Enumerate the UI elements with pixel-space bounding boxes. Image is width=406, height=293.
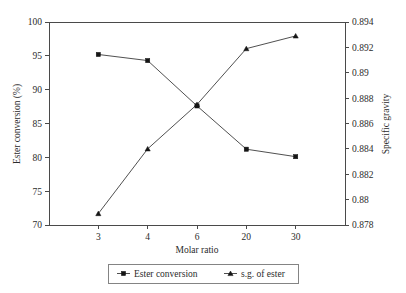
series-line — [98, 36, 295, 214]
x-axis-title: Molar ratio — [175, 245, 218, 255]
left-tick-label: 85 — [33, 119, 43, 129]
data-point-marker — [146, 58, 150, 62]
left-axis-ticks: 707580859095100 — [28, 17, 49, 230]
x-tick-label: 6 — [195, 232, 200, 242]
chart-container: 707580859095100 0.8780.880.8820.8840.886… — [0, 0, 406, 293]
right-tick-label: 0.89 — [352, 68, 369, 78]
right-tick-label: 0.886 — [352, 119, 374, 129]
data-point-marker — [244, 147, 248, 151]
data-point-marker — [96, 52, 100, 56]
data-point-marker — [294, 155, 298, 159]
right-tick-label: 0.888 — [352, 94, 374, 104]
chart-legend: Ester conversions.g. of ester — [108, 264, 298, 283]
series-2 — [96, 33, 299, 215]
x-axis-ticks: 3462030 — [96, 225, 301, 242]
right-axis-title: Specific gravity — [381, 94, 391, 155]
x-tick-label: 3 — [96, 232, 101, 242]
series-layer — [96, 33, 299, 215]
legend-label: s.g. of ester — [241, 269, 286, 279]
left-tick-label: 75 — [33, 187, 43, 197]
right-tick-label: 0.884 — [352, 144, 374, 154]
right-tick-label: 0.894 — [352, 17, 374, 27]
right-axis-ticks: 0.8780.880.8820.8840.8860.8880.890.8920.… — [345, 17, 374, 230]
left-tick-label: 90 — [33, 85, 43, 95]
left-tick-label: 80 — [33, 153, 43, 163]
x-tick-label: 30 — [291, 232, 301, 242]
left-tick-label: 95 — [33, 51, 43, 61]
x-tick-label: 4 — [145, 232, 150, 242]
x-tick-label: 20 — [242, 232, 252, 242]
legend-marker-glyph — [121, 271, 125, 275]
data-point-marker — [293, 33, 298, 38]
right-tick-label: 0.892 — [352, 43, 374, 53]
right-tick-label: 0.878 — [352, 220, 374, 230]
left-tick-label: 70 — [33, 220, 43, 230]
legend-label: Ester conversion — [134, 269, 198, 279]
left-axis-title: Ester conversion (%) — [12, 84, 23, 164]
line-chart-figure: 707580859095100 0.8780.880.8820.8840.886… — [0, 0, 406, 293]
right-tick-label: 0.88 — [352, 195, 369, 205]
left-tick-label: 100 — [28, 17, 43, 27]
right-tick-label: 0.882 — [352, 170, 374, 180]
plot-frame — [49, 22, 345, 225]
